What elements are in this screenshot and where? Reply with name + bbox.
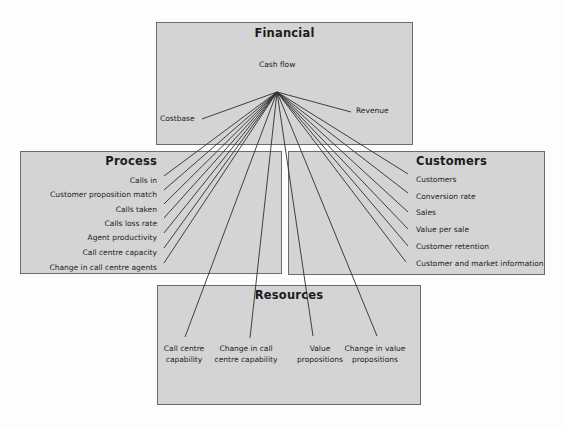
cash-flow-label: Cash flow bbox=[259, 60, 295, 69]
customers-title: Customers bbox=[416, 154, 487, 168]
customers-box: Customers Customers Conversion rate Sale… bbox=[288, 151, 545, 275]
process-item-calls-in: Calls in bbox=[130, 176, 157, 185]
process-item-calls-taken: Calls taken bbox=[116, 205, 157, 214]
process-item-calls-loss-rate: Calls loss rate bbox=[105, 219, 157, 228]
customers-item-customers: Customers bbox=[416, 175, 456, 184]
customers-item-customer-and-market-information: Customer and market information bbox=[416, 259, 544, 268]
strategy-map-diagram: Financial Cash flow Costbase Revenue Pro… bbox=[0, 0, 564, 429]
process-item-agent-productivity: Agent productivity bbox=[88, 233, 157, 242]
process-item-customer-proposition-match: Customer proposition match bbox=[50, 190, 157, 199]
resources-box: Resources Call centre capability Change … bbox=[157, 285, 421, 405]
costbase-label: Costbase bbox=[160, 114, 195, 123]
revenue-label: Revenue bbox=[356, 106, 389, 115]
resources-item-change-in-call-centre-capability: Change in call centre capability bbox=[206, 344, 286, 366]
financial-title: Financial bbox=[157, 26, 412, 40]
customers-item-conversion-rate: Conversion rate bbox=[416, 192, 476, 201]
customers-item-sales: Sales bbox=[416, 208, 436, 217]
resources-item-change-in-value-propositions: Change in value propositions bbox=[335, 344, 415, 366]
process-item-call-centre-capacity: Call centre capacity bbox=[83, 248, 157, 257]
customers-item-customer-retention: Customer retention bbox=[416, 242, 489, 251]
customers-item-value-per-sale: Value per sale bbox=[416, 225, 469, 234]
process-box: Process Calls in Customer proposition ma… bbox=[20, 151, 282, 274]
resources-title: Resources bbox=[158, 288, 420, 302]
process-title: Process bbox=[105, 154, 157, 168]
financial-box: Financial Cash flow Costbase Revenue bbox=[156, 22, 413, 145]
process-item-change-in-call-centre-agents: Change in call centre agents bbox=[49, 263, 157, 272]
